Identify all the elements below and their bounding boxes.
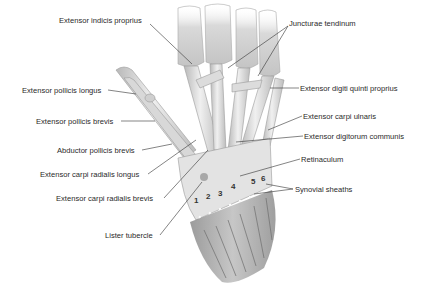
label-lister-tubercle: Lister tubercle	[105, 231, 153, 240]
compartment-4: 4	[231, 182, 235, 191]
label-extensor-carpi-radialis-longus: Extensor carpi radialis longus	[40, 170, 139, 179]
label-juncturae-tendinum: Juncturae tendinum	[289, 19, 356, 28]
label-extensor-indicis-proprius: Extensor indicis proprius	[59, 16, 142, 25]
compartment-2: 2	[206, 192, 210, 201]
fingers	[178, 4, 280, 77]
label-abductor-pollicis-brevis: Abductor pollicis brevis	[57, 146, 135, 155]
compartment-1: 1	[194, 196, 198, 205]
label-extensor-digitorum-communis: Extensor digitorum communis	[304, 132, 404, 141]
compartment-5: 5	[251, 177, 255, 186]
label-extensor-carpi-radialis-brevis: Extensor carpi radialis brevis	[56, 194, 153, 203]
compartment-6: 6	[261, 174, 265, 183]
lister-tubercle-mark	[200, 173, 208, 181]
label-extensor-pollicis-longus: Extensor pollicis longus	[22, 86, 101, 95]
label-extensor-carpi-ulnaris: Extensor carpi ulnaris	[303, 112, 376, 121]
label-retinaculum: Retinaculum	[301, 155, 343, 164]
anatomy-diagram: Extensor indicis proprius Juncturae tend…	[0, 0, 427, 287]
label-synovial-sheaths: Synovial sheaths	[295, 185, 352, 194]
label-extensor-digiti-quinti-proprius: Extensor digiti quinti proprius	[300, 84, 398, 93]
label-extensor-pollicis-brevis: Extensor pollicis brevis	[36, 117, 113, 126]
hand-illustration	[0, 0, 427, 287]
compartment-3: 3	[218, 189, 222, 198]
